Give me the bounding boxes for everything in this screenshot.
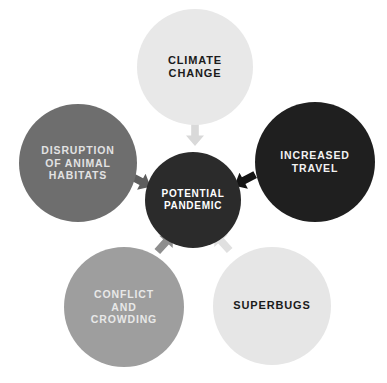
node-superbugs[interactable]: SUPERBUGS xyxy=(213,247,331,365)
node-conflict-and-crowding[interactable]: CONFLICT AND CROWDING xyxy=(64,247,184,367)
node-conflict-and-crowding-label: CONFLICT AND CROWDING xyxy=(91,288,157,326)
node-potential-pandemic-label: POTENTIAL PANDEMIC xyxy=(162,188,225,212)
node-climate-change-label: CLIMATE CHANGE xyxy=(168,54,222,81)
arrow-climate-path xyxy=(186,123,204,147)
pandemic-causes-diagram: CLIMATE CHANGE DISRUPTION OF ANIMAL HABI… xyxy=(0,0,387,383)
node-disruption-of-animal-habitats[interactable]: DISRUPTION OF ANIMAL HABITATS xyxy=(19,104,137,222)
node-increased-travel-label: INCREASED TRAVEL xyxy=(280,149,350,175)
node-increased-travel[interactable]: INCREASED TRAVEL xyxy=(255,102,375,222)
node-potential-pandemic[interactable]: POTENTIAL PANDEMIC xyxy=(145,152,241,248)
node-climate-change[interactable]: CLIMATE CHANGE xyxy=(137,9,253,125)
node-superbugs-label: SUPERBUGS xyxy=(233,299,310,312)
node-disruption-of-animal-habitats-label: DISRUPTION OF ANIMAL HABITATS xyxy=(41,144,114,182)
